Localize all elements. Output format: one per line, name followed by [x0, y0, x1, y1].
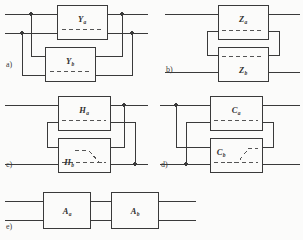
block-label-e-left: Aa: [63, 207, 71, 216]
junction-dot: [120, 12, 123, 15]
block-subscript: a: [244, 18, 247, 24]
wire-c-par-out-bottom: [110, 122, 135, 164]
junction-dot: [133, 162, 136, 165]
wire-d-par-in-bottom: [186, 122, 210, 164]
wire-d-series-out: [262, 122, 273, 147]
block-letter: C: [232, 105, 238, 115]
junction-dot: [184, 162, 187, 165]
wire-c-par-out-top: [110, 105, 124, 147]
block-label-d-top: Ca: [232, 106, 240, 115]
panel-caption-d: d): [161, 160, 168, 169]
block-subscript: b: [244, 69, 247, 75]
block-subscript: b: [137, 210, 140, 216]
block-letter: C: [217, 147, 223, 157]
block-letter: A: [131, 206, 137, 216]
block-subscript: a: [86, 109, 89, 115]
block-label-c-bottom: Hb: [64, 158, 73, 167]
junction-dot: [130, 31, 133, 34]
wire-c-series-in: [47, 122, 58, 147]
block-subscript: a: [69, 210, 72, 216]
block-label-b-top: Za: [239, 15, 247, 24]
panel-caption-e: e): [6, 222, 12, 231]
block-letter: H: [64, 157, 71, 167]
block-label-c-top: Ha: [79, 106, 88, 115]
schematic-drawing: [0, 0, 303, 240]
panel-caption-b: b): [166, 65, 173, 74]
hybrid-slope-c: [75, 150, 106, 162]
panel-caption-a: a): [6, 60, 12, 69]
block-letter: H: [79, 105, 86, 115]
block-label-a-top: Ya: [78, 15, 86, 24]
block-subscript: b: [71, 60, 74, 66]
panel-caption-c: c): [6, 160, 12, 169]
junction-dot: [174, 103, 177, 106]
figure-canvas: a) b) c) d) e) Ya Yb Za Zb Ha Hb Ca Cb A…: [0, 0, 303, 240]
wire-b-series-out: [268, 31, 279, 55]
block-label-e-right: Ab: [131, 207, 139, 216]
block-subscript: b: [223, 151, 226, 157]
wire-d-par-in-top: [176, 105, 210, 147]
wire-a-tap-in-top: [31, 14, 45, 56]
wire-b-series-in: [207, 31, 218, 55]
block-subscript: a: [83, 18, 86, 24]
block-label-b-bottom: Zb: [239, 66, 247, 75]
block-label-a-bottom: Yb: [66, 57, 74, 66]
hybrid-slope-d: [227, 148, 258, 162]
block-subscript: b: [71, 161, 74, 167]
junction-dot: [20, 31, 23, 34]
junction-dot: [29, 12, 32, 15]
block-letter: A: [63, 206, 69, 216]
wire-a-tap-out-top: [95, 14, 122, 56]
block-subscript: a: [238, 109, 241, 115]
block-label-d-bottom: Cb: [217, 148, 225, 157]
wire-a-tap-in-bottom: [22, 33, 45, 75]
junction-dot: [122, 103, 125, 106]
block-c-bottom: [58, 138, 110, 172]
